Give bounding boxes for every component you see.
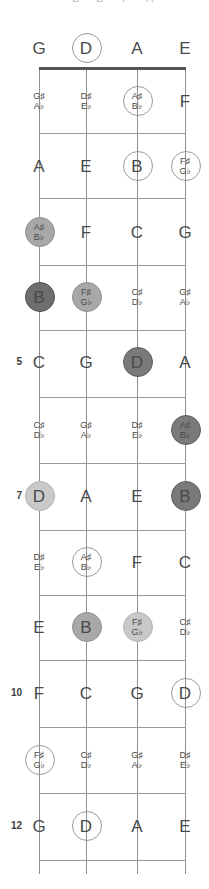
- note-flat: E♭: [180, 760, 191, 770]
- note-cell[interactable]: A: [16, 146, 62, 186]
- note-cell[interactable]: G♯A♭: [114, 740, 160, 780]
- note-enharmonic: G♯A♭: [179, 287, 191, 307]
- note-cell[interactable]: B: [16, 277, 62, 317]
- note-enharmonic: G♯A♭: [131, 750, 143, 770]
- note-cell[interactable]: G: [63, 342, 109, 382]
- note-flat: E♭: [34, 562, 45, 572]
- note-cell[interactable]: C: [162, 542, 208, 582]
- fret-wire-3: [39, 265, 186, 266]
- note-cell[interactable]: D: [162, 673, 208, 713]
- fret-wire-5: [39, 397, 186, 398]
- note-cell[interactable]: G: [16, 806, 62, 846]
- note-cell[interactable]: C: [63, 673, 109, 713]
- note-natural: A: [80, 488, 91, 505]
- note-sharp: G♯: [80, 420, 92, 430]
- note-cell[interactable]: E: [63, 146, 109, 186]
- note-cell[interactable]: C♯D♭: [162, 607, 208, 647]
- note-cell[interactable]: F: [63, 212, 109, 252]
- note-natural: G: [79, 354, 92, 371]
- note-cell[interactable]: F♯G♭: [114, 607, 160, 647]
- note-cell[interactable]: G: [16, 28, 62, 68]
- note-cell[interactable]: C♯D♭: [16, 410, 62, 450]
- fret-wire-9: [39, 660, 186, 661]
- note-cell[interactable]: A♯B♭: [16, 212, 62, 252]
- note-cell[interactable]: C♯D♭: [114, 277, 160, 317]
- note-cell[interactable]: D: [114, 342, 160, 382]
- note-sharp: G♯: [33, 91, 45, 101]
- note-cell[interactable]: B: [63, 607, 109, 647]
- note-cell[interactable]: F: [114, 542, 160, 582]
- note-cell[interactable]: F♯G♭: [63, 277, 109, 317]
- note-cell[interactable]: E: [162, 28, 208, 68]
- note-cell[interactable]: A♯B♭: [162, 410, 208, 450]
- note-sharp: A♯: [34, 222, 45, 232]
- note-cell[interactable]: A: [63, 476, 109, 516]
- note-flat: D♭: [81, 760, 92, 770]
- note-flat: B♭: [34, 232, 45, 242]
- note-natural: B: [179, 488, 190, 505]
- note-sharp: D♯: [180, 750, 191, 760]
- note-cell[interactable]: A: [114, 28, 160, 68]
- note-cell[interactable]: F: [16, 673, 62, 713]
- note-natural: F: [180, 93, 190, 110]
- note-enharmonic: A♯B♭: [132, 91, 143, 111]
- note-enharmonic: C♯D♭: [34, 420, 45, 440]
- note-natural: D: [179, 685, 191, 702]
- note-cell[interactable]: F♯G♭: [16, 740, 62, 780]
- note-cell[interactable]: D: [63, 28, 109, 68]
- note-sharp: A♯: [132, 91, 143, 101]
- note-cell[interactable]: C: [16, 342, 62, 382]
- note-enharmonic: D♯E♭: [34, 552, 45, 572]
- note-cell[interactable]: A♯B♭: [63, 542, 109, 582]
- note-cell[interactable]: D: [63, 806, 109, 846]
- note-cell[interactable]: G: [162, 212, 208, 252]
- note-enharmonic: D♯E♭: [180, 750, 191, 770]
- note-cell[interactable]: B: [114, 146, 160, 186]
- note-cell[interactable]: F♯G♭: [162, 146, 208, 186]
- note-cell[interactable]: C: [114, 212, 160, 252]
- note-cell[interactable]: F: [162, 81, 208, 121]
- note-cell[interactable]: E: [114, 476, 160, 516]
- note-natural: C: [33, 354, 45, 371]
- note-natural: E: [80, 158, 91, 175]
- note-natural: C: [179, 554, 191, 571]
- note-natural: B: [131, 158, 142, 175]
- note-cell[interactable]: D: [16, 476, 62, 516]
- note-sharp: F♯: [179, 156, 190, 166]
- note-sharp: A♯: [81, 552, 92, 562]
- fret-wire-7: [39, 530, 186, 531]
- note-cell[interactable]: D♯E♭: [114, 410, 160, 450]
- note-enharmonic: D♯E♭: [132, 420, 143, 440]
- note-cell[interactable]: D♯E♭: [16, 542, 62, 582]
- note-flat: E♭: [132, 430, 143, 440]
- note-enharmonic: C♯D♭: [132, 287, 143, 307]
- note-cell[interactable]: D♯E♭: [63, 81, 109, 121]
- note-natural: B: [33, 289, 44, 306]
- fretboard-diagram: BBFA 571012GDAEG♯A♭D♯E♭A♯B♭FAEBF♯G♭A♯B♭F…: [0, 0, 209, 889]
- note-enharmonic: F♯G♭: [179, 156, 190, 176]
- note-cell[interactable]: C♯D♭: [63, 740, 109, 780]
- note-sharp: D♯: [81, 91, 92, 101]
- note-natural: D: [131, 354, 143, 371]
- note-enharmonic: C♯D♭: [180, 617, 191, 637]
- note-flat: B♭: [81, 562, 92, 572]
- note-cell[interactable]: A: [114, 806, 160, 846]
- note-flat: D♭: [132, 297, 143, 307]
- note-natural: D: [80, 40, 92, 57]
- note-natural: C: [80, 685, 92, 702]
- note-cell[interactable]: B: [162, 476, 208, 516]
- note-cell[interactable]: E: [162, 806, 208, 846]
- note-flat: A♭: [80, 430, 92, 440]
- note-sharp: D♯: [132, 420, 143, 430]
- note-sharp: A♯: [180, 420, 191, 430]
- note-flat: G♭: [80, 297, 91, 307]
- note-cell[interactable]: G: [114, 673, 160, 713]
- note-cell[interactable]: A♯B♭: [114, 81, 160, 121]
- note-sharp: F♯: [80, 287, 91, 297]
- note-cell[interactable]: G♯A♭: [16, 81, 62, 121]
- note-cell[interactable]: E: [16, 607, 62, 647]
- note-cell[interactable]: G♯A♭: [63, 410, 109, 450]
- note-cell[interactable]: A: [162, 342, 208, 382]
- note-cell[interactable]: G♯A♭: [162, 277, 208, 317]
- note-cell[interactable]: D♯E♭: [162, 740, 208, 780]
